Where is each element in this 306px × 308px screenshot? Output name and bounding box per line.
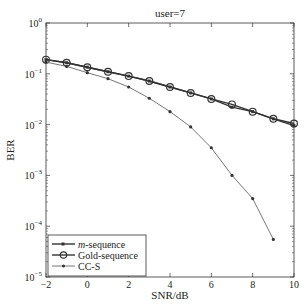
svg-text:Gold-sequence: Gold-sequence	[78, 250, 139, 261]
svg-text:6: 6	[209, 279, 214, 290]
svg-text:CC-S: CC-S	[78, 261, 100, 272]
svg-text:m-sequence: m-sequence	[78, 239, 126, 250]
svg-text:10−4: 10−4	[25, 219, 43, 232]
star-marker-icon	[210, 146, 213, 149]
series-m-sequence	[45, 58, 296, 127]
x-axis-label: SNR/dB	[151, 289, 188, 301]
star-marker-icon	[86, 71, 89, 74]
svg-text:2: 2	[126, 279, 131, 290]
star-marker-icon	[148, 97, 151, 100]
svg-text:−2: −2	[41, 279, 52, 290]
star-marker-icon	[230, 174, 233, 177]
series-cc-s	[44, 60, 275, 240]
chart-title: user=7	[155, 7, 186, 19]
svg-text:100: 100	[29, 16, 43, 29]
legend: m-sequence Gold-sequence CC-S	[48, 235, 146, 276]
ber-chart: user=7 −2024681010−510−410−310−210−1100 …	[0, 0, 306, 308]
star-marker-icon	[106, 77, 109, 80]
svg-text:8: 8	[250, 279, 255, 290]
svg-text:10−1: 10−1	[25, 67, 43, 80]
star-marker-icon	[65, 65, 68, 68]
square-marker-icon	[62, 243, 65, 246]
star-marker-icon	[44, 60, 47, 63]
star-marker-icon	[127, 85, 130, 88]
y-axis-label: BER	[4, 139, 16, 161]
plot-series	[43, 56, 298, 241]
star-marker-icon	[272, 238, 275, 241]
series-gold-sequence	[43, 56, 298, 127]
star-marker-icon	[168, 110, 171, 113]
star-marker-icon	[62, 265, 65, 268]
star-marker-icon	[251, 197, 254, 200]
svg-text:0: 0	[85, 279, 90, 290]
svg-text:10−2: 10−2	[25, 118, 43, 131]
svg-text:10: 10	[289, 279, 299, 290]
svg-text:10−3: 10−3	[25, 168, 43, 181]
star-marker-icon	[189, 125, 192, 128]
